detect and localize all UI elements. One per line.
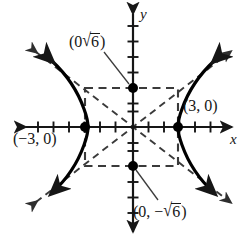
sqrt-icon: √6	[82, 33, 100, 50]
sqrt-sign: √	[163, 201, 172, 220]
label-covertex-positive-open: (0	[69, 33, 82, 50]
hyperbola-figure: (0√6) (0, −√6) (−3, 0) (3, 0) x y	[0, 0, 252, 240]
label-vertex-negative: (−3, 0)	[13, 131, 57, 147]
axes	[26, 14, 232, 232]
sqrt-icon: √6	[163, 203, 181, 220]
sqrt-sign: √	[82, 31, 91, 50]
label-vertex-positive: (3, 0)	[183, 98, 218, 114]
label-covertex-positive: (0√6)	[69, 33, 105, 50]
x-axis-label: x	[230, 132, 237, 147]
label-covertex-negative-close: )	[181, 203, 186, 220]
label-covertex-negative: (0, −√6)	[133, 203, 186, 220]
graph-canvas	[0, 0, 252, 240]
leader-line-covertex-positive	[104, 52, 129, 84]
label-covertex-negative-open: (0, −	[133, 203, 163, 220]
point-vertex-positive	[173, 122, 183, 132]
leader-line-covertex-negative	[136, 170, 158, 200]
y-axis-label: y	[140, 7, 147, 22]
point-covertex-negative	[128, 161, 138, 171]
point-vertex-negative	[80, 122, 90, 132]
label-covertex-positive-close: )	[100, 33, 105, 50]
point-covertex-positive	[128, 83, 138, 93]
